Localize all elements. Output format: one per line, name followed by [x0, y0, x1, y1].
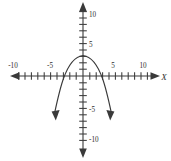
x-tick-label-pos-10: 10 [139, 62, 147, 70]
y-axis-top-arrow-icon [79, 2, 87, 12]
y-tick-label-pos-5: 5 [89, 41, 93, 49]
graph-figure: -10 -5 5 10 10 5 -5 -10 X [0, 0, 171, 161]
x-tick-label-neg-10: -10 [8, 62, 18, 70]
x-axis-right-arrow-icon [151, 72, 161, 80]
y-axis-bottom-arrow-icon [79, 149, 87, 159]
y-tick-label-pos-10: 10 [89, 11, 97, 19]
parabola-left-arrow-icon [52, 110, 60, 121]
x-tick-label-neg-5: -5 [47, 62, 53, 70]
parabola-right-arrow-icon [106, 110, 114, 121]
y-tick-label-neg-5: -5 [89, 106, 95, 114]
x-tick-label-pos-5: 5 [111, 62, 115, 70]
y-tick-label-neg-10: -10 [89, 136, 99, 144]
x-axis-label: X [160, 72, 167, 82]
coordinate-plane-svg: -10 -5 5 10 10 5 -5 -10 X [0, 0, 171, 161]
